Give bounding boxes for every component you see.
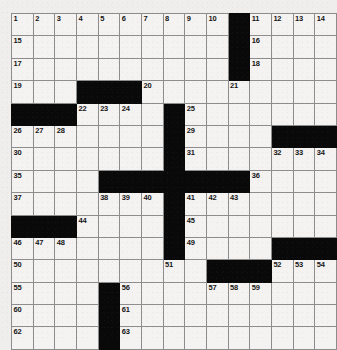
crossword-cell[interactable] <box>141 260 163 282</box>
crossword-cell[interactable]: 62 <box>12 327 34 349</box>
crossword-cell[interactable] <box>33 81 55 103</box>
crossword-cell[interactable] <box>315 81 337 103</box>
crossword-cell[interactable] <box>271 58 293 80</box>
crossword-cell[interactable] <box>33 36 55 58</box>
crossword-cell[interactable] <box>76 327 98 349</box>
crossword-cell[interactable] <box>55 81 77 103</box>
crossword-cell[interactable] <box>33 260 55 282</box>
crossword-cell[interactable] <box>55 36 77 58</box>
crossword-cell[interactable]: 4 <box>76 14 98 36</box>
crossword-cell[interactable]: 58 <box>228 282 250 304</box>
crossword-cell[interactable]: 28 <box>55 125 77 147</box>
crossword-cell[interactable]: 54 <box>315 260 337 282</box>
crossword-cell[interactable] <box>250 327 272 349</box>
crossword-cell[interactable] <box>76 36 98 58</box>
crossword-cell[interactable]: 23 <box>98 103 120 125</box>
crossword-cell[interactable] <box>98 237 120 259</box>
crossword-cell[interactable]: 43 <box>228 193 250 215</box>
crossword-cell[interactable]: 20 <box>141 81 163 103</box>
crossword-cell[interactable] <box>76 282 98 304</box>
crossword-cell[interactable] <box>271 103 293 125</box>
crossword-cell[interactable] <box>141 215 163 237</box>
crossword-cell[interactable] <box>315 103 337 125</box>
crossword-cell[interactable] <box>250 215 272 237</box>
crossword-cell[interactable] <box>141 36 163 58</box>
crossword-cell[interactable]: 13 <box>293 14 315 36</box>
crossword-cell[interactable] <box>55 148 77 170</box>
crossword-cell[interactable]: 10 <box>206 14 228 36</box>
crossword-cell[interactable]: 24 <box>120 103 142 125</box>
crossword-cell[interactable]: 56 <box>120 282 142 304</box>
crossword-cell[interactable] <box>33 305 55 327</box>
crossword-cell[interactable] <box>185 58 207 80</box>
crossword-cell[interactable]: 34 <box>315 148 337 170</box>
crossword-cell[interactable] <box>228 148 250 170</box>
crossword-cell[interactable] <box>293 81 315 103</box>
crossword-cell[interactable] <box>293 282 315 304</box>
crossword-cell[interactable] <box>228 305 250 327</box>
crossword-cell[interactable] <box>55 170 77 192</box>
crossword-cell[interactable]: 26 <box>12 125 34 147</box>
crossword-cell[interactable] <box>33 58 55 80</box>
crossword-cell[interactable] <box>141 282 163 304</box>
crossword-cell[interactable] <box>228 103 250 125</box>
crossword-cell[interactable] <box>98 125 120 147</box>
crossword-cell[interactable]: 57 <box>206 282 228 304</box>
crossword-cell[interactable] <box>293 36 315 58</box>
crossword-cell[interactable] <box>163 36 185 58</box>
crossword-cell[interactable]: 2 <box>33 14 55 36</box>
crossword-cell[interactable] <box>98 58 120 80</box>
crossword-cell[interactable] <box>206 215 228 237</box>
crossword-cell[interactable] <box>76 260 98 282</box>
crossword-cell[interactable] <box>293 170 315 192</box>
crossword-cell[interactable]: 11 <box>250 14 272 36</box>
crossword-cell[interactable] <box>98 260 120 282</box>
crossword-cell[interactable] <box>315 215 337 237</box>
crossword-cell[interactable] <box>33 327 55 349</box>
crossword-cell[interactable] <box>163 327 185 349</box>
crossword-cell[interactable] <box>76 58 98 80</box>
crossword-cell[interactable] <box>206 81 228 103</box>
crossword-cell[interactable] <box>76 125 98 147</box>
crossword-cell[interactable]: 52 <box>271 260 293 282</box>
crossword-cell[interactable]: 31 <box>185 148 207 170</box>
crossword-cell[interactable]: 49 <box>185 237 207 259</box>
crossword-cell[interactable]: 40 <box>141 193 163 215</box>
crossword-cell[interactable] <box>120 148 142 170</box>
crossword-cell[interactable] <box>141 125 163 147</box>
crossword-cell[interactable] <box>120 215 142 237</box>
crossword-cell[interactable] <box>141 103 163 125</box>
crossword-cell[interactable] <box>250 81 272 103</box>
crossword-cell[interactable]: 42 <box>206 193 228 215</box>
crossword-cell[interactable]: 44 <box>76 215 98 237</box>
crossword-cell[interactable]: 14 <box>315 14 337 36</box>
crossword-cell[interactable]: 7 <box>141 14 163 36</box>
crossword-cell[interactable] <box>76 305 98 327</box>
crossword-cell[interactable] <box>271 81 293 103</box>
crossword-cell[interactable] <box>55 305 77 327</box>
crossword-cell[interactable]: 21 <box>228 81 250 103</box>
crossword-cell[interactable] <box>271 215 293 237</box>
crossword-cell[interactable] <box>141 148 163 170</box>
crossword-cell[interactable]: 18 <box>250 58 272 80</box>
crossword-cell[interactable] <box>228 215 250 237</box>
crossword-cell[interactable] <box>185 305 207 327</box>
crossword-cell[interactable] <box>98 148 120 170</box>
crossword-cell[interactable] <box>141 237 163 259</box>
crossword-cell[interactable] <box>315 327 337 349</box>
crossword-cell[interactable]: 50 <box>12 260 34 282</box>
crossword-cell[interactable] <box>163 282 185 304</box>
crossword-cell[interactable] <box>98 36 120 58</box>
crossword-cell[interactable]: 48 <box>55 237 77 259</box>
crossword-cell[interactable]: 33 <box>293 148 315 170</box>
crossword-cell[interactable] <box>250 237 272 259</box>
crossword-cell[interactable] <box>206 58 228 80</box>
crossword-cell[interactable]: 32 <box>271 148 293 170</box>
crossword-cell[interactable]: 38 <box>98 193 120 215</box>
crossword-cell[interactable] <box>206 125 228 147</box>
crossword-cell[interactable] <box>293 215 315 237</box>
crossword-cell[interactable] <box>315 36 337 58</box>
crossword-cell[interactable]: 30 <box>12 148 34 170</box>
crossword-cell[interactable] <box>185 81 207 103</box>
crossword-cell[interactable] <box>163 305 185 327</box>
